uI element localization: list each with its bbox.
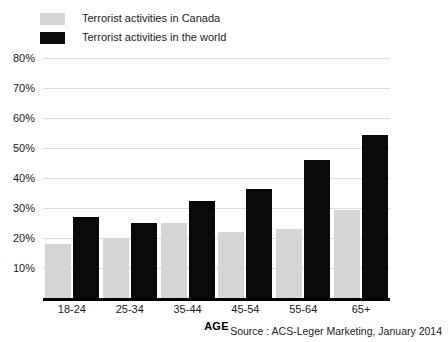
ytick-label-10: 10% [13, 263, 35, 274]
bar-world-55-64 [304, 160, 330, 298]
bar-world-65plus [362, 135, 388, 299]
bar-canada-65plus [334, 210, 360, 299]
ytick-label-80: 80% [13, 53, 35, 64]
legend-swatch-world-icon [40, 32, 65, 44]
xtick-label-65plus: 65+ [332, 303, 390, 316]
bar-world-25-34 [131, 223, 157, 298]
ytick-label-60: 60% [13, 113, 35, 124]
bar-world-18-24 [73, 217, 99, 298]
bar-group-35-44 [159, 58, 217, 298]
source-attribution: Source : ACS-Leger Marketing, January 20… [230, 325, 442, 337]
xtick-label-45-54: 45-54 [216, 303, 274, 316]
bar-group-55-64 [274, 58, 332, 298]
ytick-label-20: 20% [13, 233, 35, 244]
xtick-label-35-44: 35-44 [159, 303, 217, 316]
xtick-label-18-24: 18-24 [43, 303, 101, 316]
x-axis-baseline [43, 298, 390, 301]
ytick-label-30: 30% [13, 203, 35, 214]
bar-series-container [43, 58, 390, 298]
xtick-label-55-64: 55-64 [274, 303, 332, 316]
legend-swatch-canada-icon [40, 13, 65, 25]
bar-canada-45-54 [218, 232, 244, 298]
ytick-label-70: 70% [13, 83, 35, 94]
x-axis-labels: 18-24 25-34 35-44 45-54 55-64 65+ [43, 303, 390, 316]
bar-canada-55-64 [276, 229, 302, 298]
bar-group-18-24 [43, 58, 101, 298]
legend-label-world: Terrorist activities in the world [82, 31, 226, 44]
xtick-label-25-34: 25-34 [101, 303, 159, 316]
bar-world-35-44 [189, 201, 215, 299]
legend-item-canada: Terrorist activities in Canada [40, 10, 360, 27]
legend-item-world: Terrorist activities in the world [40, 29, 360, 46]
bar-group-45-54 [216, 58, 274, 298]
ytick-label-40: 40% [13, 173, 35, 184]
bar-group-25-34 [101, 58, 159, 298]
bar-canada-35-44 [161, 223, 187, 298]
legend-label-canada: Terrorist activities in Canada [82, 12, 220, 25]
ytick-label-50: 50% [13, 143, 35, 154]
chart-plot-area: 80% 70% 60% 50% 40% 30% 20% 10% [43, 58, 390, 298]
bar-group-65plus [332, 58, 390, 298]
bar-canada-18-24 [45, 244, 71, 298]
bar-world-45-54 [246, 189, 272, 299]
chart-legend: Terrorist activities in Canada Terrorist… [40, 10, 360, 48]
bar-canada-25-34 [103, 238, 129, 298]
